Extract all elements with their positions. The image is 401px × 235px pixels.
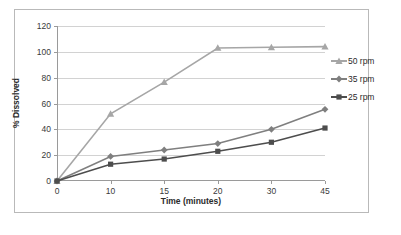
series-50-rpm: [53, 43, 328, 184]
legend-marker-icon: [331, 91, 347, 103]
data-point-marker: [336, 76, 343, 83]
data-point-marker: [268, 126, 275, 133]
legend-label: 25 rpm: [348, 92, 374, 102]
x-axis-tick: [164, 181, 165, 184]
legend-item[interactable]: 25 rpm: [331, 88, 387, 106]
data-point-marker: [107, 110, 114, 116]
data-point-marker: [335, 57, 342, 63]
data-point-marker: [161, 79, 168, 85]
x-axis-tick-label: 15: [159, 186, 168, 196]
series-line: [57, 128, 325, 181]
y-axis-title: % Dissolved: [11, 78, 21, 128]
data-point-marker: [161, 147, 168, 154]
x-axis-tick-label: 45: [320, 186, 329, 196]
legend-marker-glyph: [331, 73, 347, 85]
y-axis-tick-label: 20: [42, 150, 51, 160]
x-axis-tick-label: 10: [106, 186, 115, 196]
legend-label: 50 rpm: [348, 56, 374, 66]
y-axis-tick-label: 80: [42, 73, 51, 83]
data-point-marker: [336, 94, 341, 99]
x-axis-tick: [111, 181, 112, 184]
x-axis-tick-label: 30: [267, 186, 276, 196]
y-axis-tick-label: 120: [37, 21, 51, 31]
data-point-marker: [54, 178, 59, 183]
data-point-marker: [162, 156, 167, 161]
data-point-marker: [269, 140, 274, 145]
x-axis-tick: [325, 181, 326, 184]
series-line: [57, 109, 325, 181]
data-point-marker: [214, 140, 221, 147]
data-point-marker: [108, 162, 113, 167]
legend-marker-glyph: [331, 55, 347, 67]
x-axis-title: Time (minutes): [57, 196, 325, 206]
legend-item[interactable]: 35 rpm: [331, 70, 387, 88]
chart-screenshot: % Dissolved 020406080100120 01015203045 …: [0, 0, 401, 235]
y-axis-tick-label: 60: [42, 99, 51, 109]
legend-marker-icon: [331, 55, 347, 67]
series-line: [57, 47, 325, 181]
legend-marker-glyph: [331, 91, 347, 103]
y-axis-tick-label: 0: [46, 176, 51, 186]
y-axis-tick-label: 40: [42, 124, 51, 134]
series-layer: [57, 26, 325, 181]
series-35-rpm: [54, 106, 329, 184]
data-point-marker: [215, 149, 220, 154]
legend-marker-icon: [331, 73, 347, 85]
legend-item[interactable]: 50 rpm: [331, 52, 387, 70]
x-axis-tick: [218, 181, 219, 184]
plot-area: 020406080100120 01015203045: [57, 26, 325, 181]
x-axis-tick-label: 20: [213, 186, 222, 196]
data-point-marker: [107, 153, 114, 160]
x-axis-tick-label: 0: [55, 186, 60, 196]
chart-legend: 50 rpm35 rpm25 rpm: [331, 52, 387, 106]
x-axis-tick: [271, 181, 272, 184]
legend-label: 35 rpm: [348, 74, 374, 84]
data-point-marker: [322, 125, 327, 130]
y-axis-tick-label: 100: [37, 47, 51, 57]
